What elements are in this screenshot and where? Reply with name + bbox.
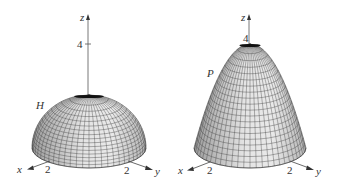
x-axis-label: x <box>16 163 22 175</box>
z-axis-arrow-icon <box>86 14 90 20</box>
paraboloid-surface <box>194 44 306 168</box>
z-axis-label: z <box>79 11 85 23</box>
figure-canvas: z 4 x 2 y 2 H z 4 x 2 y <box>0 0 337 186</box>
y-axis-label: y <box>315 165 321 177</box>
y-axis-label: y <box>154 165 160 177</box>
z-axis-label: z <box>240 11 246 23</box>
y-axis <box>290 161 309 168</box>
z-axis-arrow-icon <box>247 14 251 20</box>
z-tick-label: 4 <box>77 38 83 50</box>
y-axis-arrow-icon <box>145 166 153 171</box>
x-axis-arrow-icon <box>187 167 194 172</box>
x-axis-arrow-icon <box>27 166 34 171</box>
y-axis-arrow-icon <box>306 166 314 171</box>
y-tick-label: 2 <box>124 164 130 176</box>
surface-label-p: P <box>206 67 214 79</box>
x-tick-label: 2 <box>207 164 213 176</box>
figure: z 4 x 2 y 2 H z 4 x 2 y <box>0 0 337 186</box>
x-tick-label: 2 <box>45 163 51 175</box>
paraboloid-panel: z 4 x 2 y 2 P <box>177 11 321 177</box>
surface-label-h: H <box>35 99 45 111</box>
z-tick-label: 4 <box>243 32 249 44</box>
y-tick-label: 2 <box>287 164 293 176</box>
y-axis <box>128 161 148 168</box>
hemisphere-surface <box>32 95 146 168</box>
hemisphere-panel: z 4 x 2 y 2 H <box>16 11 160 177</box>
x-axis-label: x <box>177 164 183 176</box>
